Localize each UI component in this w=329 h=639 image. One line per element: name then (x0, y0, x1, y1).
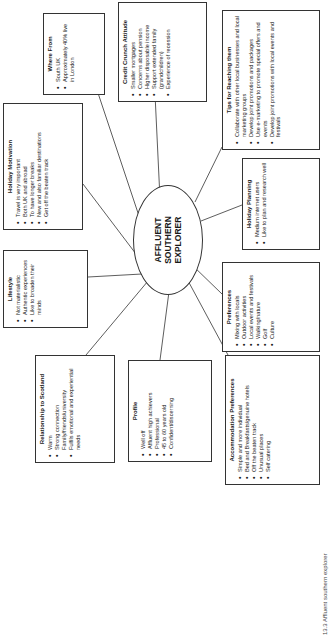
box-credit-crunch-attitude: Credit Crunch Attitude Smaller mortgages… (118, 2, 207, 102)
central-node-line-3: EXPLORER (173, 216, 183, 264)
box-lifestyle: Lifestyle Not materialistic Authentic ex… (3, 250, 88, 328)
list-item: Culture (269, 267, 276, 339)
list-item: Fulfils emotional and experiential needs (68, 360, 82, 450)
list-item: Develop joint promotions with local even… (269, 15, 283, 137)
list-item: Like to plan and research well (261, 163, 268, 237)
box-title: Where From (47, 18, 54, 90)
list-item: Get off the beaten track (43, 108, 50, 217)
figure-caption: 13.3 Affluent southern explorer (322, 553, 328, 635)
list-item: Authentic experiences (22, 255, 29, 315)
list-item: Outdoor activities (241, 267, 248, 339)
box-holiday-planning: Holiday Planning Medium internet users L… (242, 158, 320, 250)
box-title: Credit Crunch Attitude (122, 7, 129, 97)
list-item: South UK (55, 18, 62, 82)
list-item: Strong connection Family/friends/univers… (54, 360, 68, 450)
list-item: Mixing with locals (234, 267, 241, 339)
box-relationship-to-scotland: Relationship to Scotland Warm Strong con… (35, 355, 115, 463)
central-node: AFFLUENT SOUTHERN EXPLORER (133, 185, 203, 295)
list-item: Approximately 40% live in London (62, 18, 76, 82)
central-node-line-1: AFFLUENT (153, 216, 163, 264)
list-item: Medium internet users (254, 163, 261, 237)
list-item: Develop joint promotions and packages (248, 15, 255, 137)
list-item: Self catering (265, 360, 272, 472)
box-where-from: Where From South UK Approximately 40% li… (43, 13, 105, 95)
list-item: Higher disposable income (144, 7, 151, 89)
box-preferences: Preferences Mixing with locals Outdoor a… (222, 262, 320, 352)
connector-holiday-planning (201, 205, 242, 221)
list-item: Off the beaten track (251, 360, 258, 472)
connector-holiday-motivation (83, 184, 136, 254)
list-item: Unusual places (258, 360, 265, 472)
list-item: Smaller mortgages (130, 7, 137, 89)
list-item: Affluent high achievers (147, 365, 154, 449)
list-item: Local events and festivals (248, 267, 255, 339)
central-node-line-2: SOUTHERN (163, 216, 173, 264)
box-title: Preferences (226, 267, 233, 347)
list-item: Collaborate with other local businesses … (234, 15, 248, 137)
box-title: Tips for Reaching them (226, 15, 233, 145)
list-item: New and also familiar destinations (36, 108, 43, 217)
list-item: Use e-marketing to promote special offer… (255, 15, 269, 137)
list-item: Professional (154, 365, 161, 449)
list-item: Warm (47, 360, 54, 450)
list-item: Both UK and abroad (22, 108, 29, 217)
box-title: Relationship to Scotland (39, 360, 46, 458)
box-accommodation-preferences: Accommodation Preferences Simple and mor… (225, 355, 320, 485)
connector-lifestyle (88, 274, 142, 277)
box-profile: Profile Well off Affluent high achievers… (128, 360, 212, 462)
connector-where-from (95, 84, 140, 219)
list-item: Travel is very important (15, 108, 22, 217)
connector-tips (195, 147, 222, 202)
box-title: Profile (132, 365, 139, 457)
box-title: Holiday Motivation (7, 108, 14, 225)
list-item: Support extended family (grandchildren) (151, 7, 165, 89)
list-item: Golf (262, 267, 269, 339)
list-item: Not materialistic (15, 255, 22, 315)
box-tips-for-reaching-them: Tips for Reaching them Collaborate with … (222, 10, 320, 150)
connector-credit-crunch (155, 94, 160, 199)
box-title: Holiday Planning (246, 163, 253, 245)
list-item: Simple and more individual (237, 360, 244, 472)
connector-profile (160, 284, 170, 360)
list-item: 45 to 60 years old (161, 365, 168, 449)
list-item: To have longer breaks (29, 108, 36, 217)
box-holiday-motivation: Holiday Motivation Travel is very import… (3, 103, 83, 230)
list-item: Bed and Breakfasts/genuine hotels (244, 360, 251, 472)
list-item: Confident/discerning (168, 365, 175, 449)
connector-relationship (86, 281, 148, 355)
list-item: Well off (140, 365, 147, 449)
list-item: Concerns about pension (137, 7, 144, 89)
mind-map-diagram: AFFLUENT SOUTHERN EXPLORER Where From So… (0, 0, 329, 639)
box-title: Accommodation Preferences (229, 360, 236, 480)
list-item: Like to broaden their minds (29, 255, 43, 315)
list-item: Walking/nature (255, 267, 262, 339)
box-title: Lifestyle (7, 255, 14, 323)
list-item: Experience of recession (165, 7, 172, 89)
